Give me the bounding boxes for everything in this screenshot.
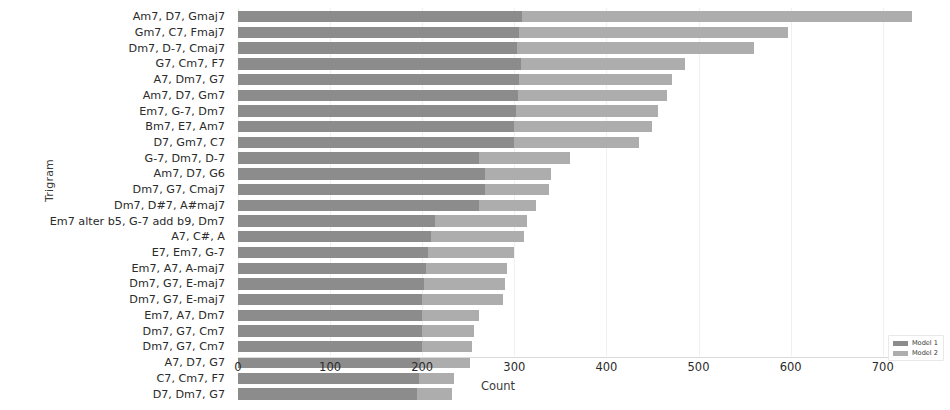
- bar-segment-model-2[interactable]: [485, 184, 549, 195]
- bar-row: Dm7, G7, Cm7: [0, 339, 950, 355]
- bar-segment-model-2[interactable]: [479, 152, 569, 163]
- stacked-bar[interactable]: [238, 137, 639, 148]
- bar-row: G-7, Dm7, D-7: [0, 150, 950, 166]
- bar-segment-model-2[interactable]: [522, 11, 913, 22]
- bar-segment-model-1[interactable]: [238, 263, 426, 274]
- stacked-bar[interactable]: [238, 152, 570, 163]
- y-axis-tick-label: G-7, Dm7, D-7: [0, 153, 232, 164]
- plot-area: Am7, D7, Gmaj7Gm7, C7, Fmaj7Dm7, D-7, Cm…: [0, 0, 950, 410]
- bar-track: [232, 166, 950, 182]
- bar-segment-model-1[interactable]: [238, 184, 485, 195]
- bar-segment-model-2[interactable]: [514, 121, 652, 132]
- bar-segment-model-1[interactable]: [238, 310, 422, 321]
- bar-segment-model-2[interactable]: [422, 325, 474, 336]
- bar-segment-model-1[interactable]: [238, 74, 519, 85]
- stacked-bar[interactable]: [238, 168, 551, 179]
- bar-row: Dm7, D#7, A#maj7: [0, 198, 950, 214]
- stacked-bar[interactable]: [238, 231, 524, 242]
- bar-segment-model-2[interactable]: [519, 27, 788, 38]
- y-axis-tick-label: Am7, D7, Gmaj7: [0, 11, 232, 22]
- bar-segment-model-1[interactable]: [238, 247, 428, 258]
- bar-segment-model-1[interactable]: [238, 294, 422, 305]
- bar-segment-model-1[interactable]: [238, 42, 517, 53]
- bar-segment-model-2[interactable]: [517, 42, 754, 53]
- y-axis-tick-label: D7, Gm7, C7: [0, 137, 232, 148]
- bar-segment-model-2[interactable]: [514, 137, 638, 148]
- bar-segment-model-1[interactable]: [238, 168, 485, 179]
- stacked-bar[interactable]: [238, 325, 474, 336]
- x-axis-tick-label: 400: [595, 360, 617, 374]
- bar-segment-model-1[interactable]: [238, 121, 514, 132]
- bar-segment-model-2[interactable]: [521, 58, 685, 69]
- stacked-bar[interactable]: [238, 11, 912, 22]
- bar-segment-model-2[interactable]: [426, 263, 507, 274]
- stacked-bar[interactable]: [238, 247, 514, 258]
- bar-segment-model-2[interactable]: [428, 247, 515, 258]
- legend-item[interactable]: Model 2: [893, 349, 938, 357]
- x-axis-tick-label: 500: [688, 360, 710, 374]
- bar-row: Dm7, G7, E-maj7: [0, 292, 950, 308]
- bar-row: Bm7, E7, Am7: [0, 119, 950, 135]
- bar-segment-model-1[interactable]: [238, 200, 479, 211]
- legend-item[interactable]: Model 1: [893, 339, 938, 347]
- bar-segment-model-1[interactable]: [238, 11, 522, 22]
- y-axis-tick-label: Dm7, G7, Cm7: [0, 341, 232, 352]
- stacked-bar[interactable]: [238, 200, 536, 211]
- bar-segment-model-2[interactable]: [422, 310, 479, 321]
- bar-segment-model-1[interactable]: [238, 137, 514, 148]
- stacked-bar[interactable]: [238, 184, 549, 195]
- stacked-bar[interactable]: [238, 58, 685, 69]
- stacked-bar[interactable]: [238, 74, 672, 85]
- legend-swatch-icon: [893, 351, 908, 356]
- bar-segment-model-1[interactable]: [238, 215, 435, 226]
- legend-label: Model 2: [912, 349, 938, 357]
- bar-segment-model-2[interactable]: [431, 231, 523, 242]
- bar-segment-model-1[interactable]: [238, 58, 521, 69]
- y-axis-tick-label: Dm7, D-7, Cmaj7: [0, 43, 232, 54]
- bar-segment-model-1[interactable]: [238, 27, 519, 38]
- bar-row: Am7, D7, G6: [0, 166, 950, 182]
- bar-segment-model-2[interactable]: [424, 278, 505, 289]
- bar-segment-model-2[interactable]: [518, 90, 667, 101]
- bar-track: [232, 150, 950, 166]
- stacked-bar[interactable]: [238, 215, 527, 226]
- stacked-bar[interactable]: [238, 121, 652, 132]
- bar-segment-model-1[interactable]: [238, 90, 518, 101]
- bar-segment-model-2[interactable]: [516, 105, 658, 116]
- bar-segment-model-2[interactable]: [485, 168, 551, 179]
- bar-rows: Am7, D7, Gmaj7Gm7, C7, Fmaj7Dm7, D-7, Cm…: [0, 9, 950, 402]
- bar-segment-model-1[interactable]: [238, 325, 422, 336]
- bar-row: Dm7, G7, E-maj7: [0, 276, 950, 292]
- bar-track: [232, 103, 950, 119]
- bar-segment-model-2[interactable]: [422, 294, 503, 305]
- stacked-bar[interactable]: [238, 310, 479, 321]
- stacked-bar[interactable]: [238, 278, 505, 289]
- stacked-bar[interactable]: [238, 294, 503, 305]
- bar-row: Gm7, C7, Fmaj7: [0, 25, 950, 41]
- stacked-bar[interactable]: [238, 263, 507, 274]
- stacked-bar[interactable]: [238, 90, 667, 101]
- stacked-bar[interactable]: [238, 27, 788, 38]
- bar-segment-model-2[interactable]: [479, 200, 536, 211]
- bar-segment-model-2[interactable]: [519, 74, 672, 85]
- bar-segment-model-2[interactable]: [435, 215, 527, 226]
- x-axis-tick-label: 200: [411, 360, 433, 374]
- bar-segment-model-1[interactable]: [238, 341, 422, 352]
- bar-track: [232, 119, 950, 135]
- stacked-bar[interactable]: [238, 105, 658, 116]
- x-axis-tick-label: 300: [503, 360, 525, 374]
- bar-segment-model-1[interactable]: [238, 231, 431, 242]
- stacked-bar[interactable]: [238, 341, 472, 352]
- stacked-bar[interactable]: [238, 357, 470, 368]
- bar-segment-model-1[interactable]: [238, 105, 516, 116]
- bar-segment-model-2[interactable]: [422, 341, 472, 352]
- bar-segment-model-1[interactable]: [238, 152, 479, 163]
- bar-segment-model-1[interactable]: [238, 278, 424, 289]
- bar-track: [232, 323, 950, 339]
- stacked-bar[interactable]: [238, 42, 754, 53]
- bar-row: Am7, D7, Gm7: [0, 88, 950, 104]
- trigram-count-bar-chart: Am7, D7, Gmaj7Gm7, C7, Fmaj7Dm7, D-7, Cm…: [0, 0, 950, 410]
- y-axis-tick-label: Am7, D7, G6: [0, 168, 232, 179]
- x-axis-title: Count: [0, 379, 950, 393]
- y-axis-tick-label: Em7, A7, A-maj7: [0, 263, 232, 274]
